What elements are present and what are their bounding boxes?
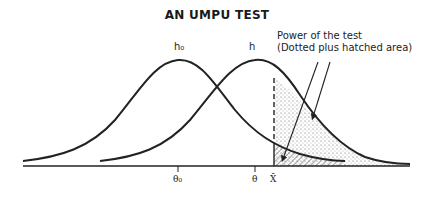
tick-label-xbar: X̄ (270, 173, 277, 184)
curve-h (100, 60, 410, 164)
label-h0: h₀ (174, 41, 184, 52)
tick-label-theta0: θ₀ (173, 174, 182, 184)
label-h: h (249, 41, 255, 52)
diagram-canvas: h₀ h θ₀ θ X̄ (0, 0, 434, 197)
tick-label-theta: θ (252, 174, 257, 184)
